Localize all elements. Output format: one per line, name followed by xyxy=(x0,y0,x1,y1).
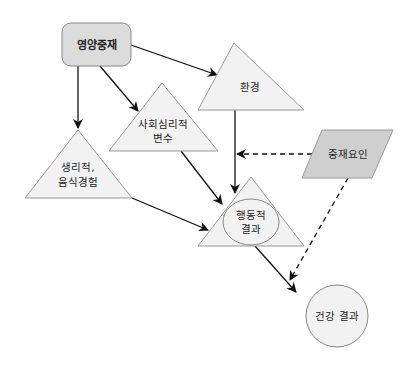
node-behavioral-line1: 행동적 xyxy=(236,209,266,221)
node-intervention-label: 영양중재 xyxy=(77,38,117,52)
node-health-label: 건강 결과 xyxy=(315,310,358,322)
node-physiological: 생리적, 음식경험 xyxy=(25,130,132,198)
node-environment-label: 환경 xyxy=(240,81,260,93)
node-psychosocial: 사회심리적 변수 xyxy=(109,83,218,151)
node-environment: 환경 xyxy=(198,43,304,110)
edge-mediator-health xyxy=(290,178,348,280)
node-behavioral: 행동적 결과 xyxy=(198,177,304,246)
node-psychosocial-line1: 사회심리적 xyxy=(138,118,188,130)
node-physiological-line1: 생리적, xyxy=(61,161,94,173)
diagram-canvas: 영양중재 환경 사회심리적 변수 생리적, 음식경험 행동적 결과 중재요인 건… xyxy=(0,0,414,369)
edge-intervention-environment xyxy=(131,45,217,75)
node-behavioral-line2: 결과 xyxy=(241,223,261,235)
edge-behavioral-health xyxy=(255,246,296,292)
node-intervention: 영양중재 xyxy=(62,23,131,66)
node-health: 건강 결과 xyxy=(306,285,368,347)
node-psychosocial-line2: 변수 xyxy=(153,132,173,144)
node-mediator-label: 중재요인 xyxy=(328,148,368,160)
node-physiological-line2: 음식경험 xyxy=(58,176,98,188)
node-mediator: 중재요인 xyxy=(302,130,393,178)
edge-physiological-behavioral xyxy=(132,198,208,230)
edge-intervention-psychosocial xyxy=(100,66,138,111)
edge-psychosocial-behavioral xyxy=(181,151,222,204)
